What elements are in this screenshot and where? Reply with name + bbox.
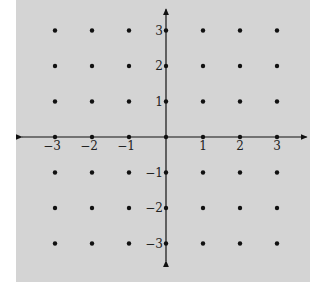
lattice-point: [201, 99, 205, 103]
lattice-point: [238, 64, 242, 68]
lattice-point: [164, 135, 168, 139]
y-tick-label: 3: [155, 24, 163, 38]
lattice-point: [164, 64, 168, 68]
lattice-point: [127, 64, 131, 68]
lattice-point: [53, 28, 57, 32]
lattice-point: [238, 241, 242, 245]
x-tick-label: 1: [199, 139, 207, 153]
lattice-point: [127, 99, 131, 103]
lattice-point: [238, 206, 242, 210]
lattice-point: [201, 170, 205, 174]
lattice-point: [127, 28, 131, 32]
y-tick-label: −3: [145, 237, 163, 251]
x-tick-label: 3: [273, 139, 281, 153]
lattice-point: [53, 241, 57, 245]
lattice-point: [275, 241, 279, 245]
lattice-point: [201, 64, 205, 68]
lattice-point: [238, 170, 242, 174]
lattice-point: [238, 28, 242, 32]
lattice-point: [90, 28, 94, 32]
lattice-point: [201, 28, 205, 32]
lattice-point: [275, 99, 279, 103]
lattice-point: [90, 64, 94, 68]
lattice-point: [164, 99, 168, 103]
lattice-point: [90, 170, 94, 174]
lattice-point: [90, 206, 94, 210]
lattice-point: [127, 206, 131, 210]
lattice-point: [53, 99, 57, 103]
lattice-plot: −3−2−1123−3−2−1123: [0, 0, 310, 287]
lattice-point: [90, 99, 94, 103]
y-tick-label: 2: [155, 59, 163, 73]
lattice-point: [90, 241, 94, 245]
y-tick-label: −2: [145, 201, 163, 215]
lattice-point: [164, 241, 168, 245]
lattice-point: [53, 170, 57, 174]
lattice-point: [164, 170, 168, 174]
lattice-point: [201, 241, 205, 245]
y-tick-label: −1: [145, 166, 163, 180]
x-tick-label: −3: [43, 139, 61, 153]
lattice-point: [53, 64, 57, 68]
lattice-point: [275, 64, 279, 68]
lattice-point: [164, 28, 168, 32]
lattice-point: [53, 206, 57, 210]
lattice-point: [201, 206, 205, 210]
lattice-point: [275, 206, 279, 210]
x-tick-label: 2: [236, 139, 244, 153]
x-tick-label: −1: [117, 139, 135, 153]
y-tick-label: 1: [155, 95, 163, 109]
lattice-point: [275, 170, 279, 174]
x-tick-label: −2: [80, 139, 98, 153]
lattice-point: [275, 28, 279, 32]
lattice-point: [127, 241, 131, 245]
lattice-point: [238, 99, 242, 103]
lattice-point: [164, 206, 168, 210]
lattice-point: [127, 170, 131, 174]
